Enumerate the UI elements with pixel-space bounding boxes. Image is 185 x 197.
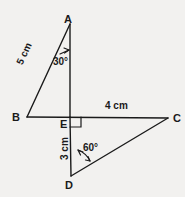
vertex-label-b: B [12, 112, 20, 123]
angle-label-30: 30° [53, 57, 68, 67]
vertex-label-a: A [64, 14, 72, 25]
geometry-figure: A B C D E 30° 60° 5 cm 4 cm 3 cm [0, 0, 185, 197]
vertex-label-c: C [173, 113, 181, 124]
right-angle-marker-e [70, 117, 81, 127]
angle-arrow-d-lower [86, 157, 91, 162]
angle-label-60: 60° [83, 143, 98, 153]
vertex-label-e: E [60, 119, 67, 130]
segment-bc [27, 117, 168, 118]
segment-ba [27, 24, 70, 117]
geometry-canvas [0, 0, 185, 197]
segment-ed [70, 117, 71, 176]
measure-label-ec: 4 cm [105, 101, 128, 111]
vertex-label-d: D [65, 180, 73, 191]
measure-label-ed: 3 cm [60, 137, 70, 160]
